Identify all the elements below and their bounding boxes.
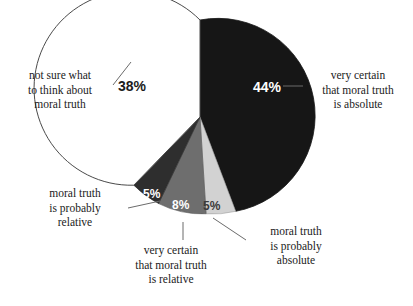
pie-chart-figure: 38% 44% 5% 8% 5% not sure what to think … — [0, 0, 413, 306]
slice-value-not-sure: 38% — [118, 78, 146, 94]
slice-value-probably-relative: 5% — [143, 187, 160, 201]
slice-value-probably-absolute: 5% — [203, 199, 220, 213]
slice-label-not-sure: not sure what to think about moral truth — [6, 68, 114, 112]
leader-line-probably-absolute — [213, 218, 246, 240]
slice-value-very-certain-absolute: 44% — [253, 79, 281, 95]
leader-line-probably-relative — [128, 201, 160, 208]
slice-label-very-certain-relative: very certain that moral truth is relativ… — [108, 243, 234, 287]
slice-label-probably-relative: moral truth is probably relative — [22, 186, 128, 230]
slice-label-very-certain-absolute: very certain that moral truth is absolut… — [306, 68, 410, 112]
slice-value-very-certain-relative: 8% — [172, 198, 189, 212]
slice-label-probably-absolute: moral truth is probably absolute — [244, 224, 348, 268]
